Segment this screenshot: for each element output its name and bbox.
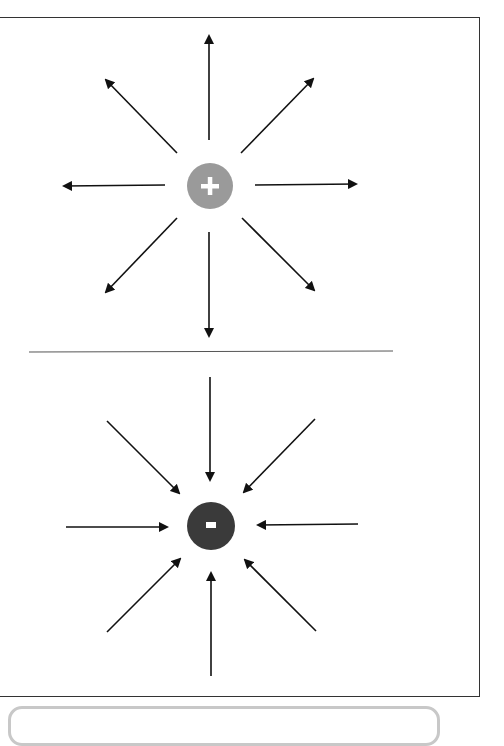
divider-line — [29, 351, 393, 352]
negative-charge — [187, 502, 235, 550]
minus-icon — [206, 522, 216, 528]
caption-box — [8, 706, 440, 746]
positive-charge — [187, 163, 233, 209]
